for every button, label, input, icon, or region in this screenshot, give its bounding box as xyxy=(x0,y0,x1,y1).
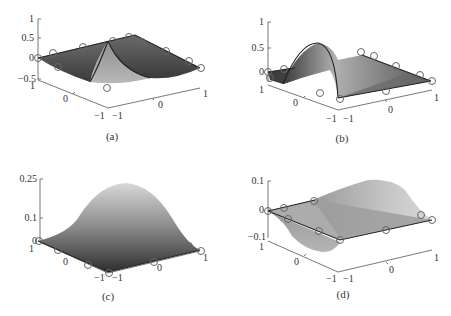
x-tick: 1 xyxy=(434,252,439,263)
panel-d: 0.1 0 −0.1 1 0 −1 −1 0 1 (d) xyxy=(248,175,439,301)
z-tick: 0 xyxy=(259,204,264,215)
y-tick: 0 xyxy=(294,256,299,267)
y-tick: −1 xyxy=(326,113,337,124)
x-tick: 1 xyxy=(203,88,208,99)
y-tick: 0 xyxy=(63,256,68,267)
caption-d: (d) xyxy=(337,288,350,301)
x-tick: 0 xyxy=(389,264,394,275)
z-tick: 0.1 xyxy=(25,212,38,223)
x-tick: 0 xyxy=(388,104,393,115)
panel-a: 1 0.5 0 −0.5 1 0 −1 −1 0 1 (a) xyxy=(18,13,208,143)
surface-b-main xyxy=(283,43,431,98)
y-tick: 1 xyxy=(259,84,264,95)
z-axis xyxy=(38,19,41,80)
y-tick: 0 xyxy=(63,93,68,104)
x-axis xyxy=(108,88,200,108)
z-axis xyxy=(268,181,271,238)
y-tick: −1 xyxy=(326,273,337,284)
y-tick: 1 xyxy=(30,80,35,91)
panel-b: 1 0.5 0 1 0 −1 −1 0 1 (b) xyxy=(252,16,440,145)
x-tick: −1 xyxy=(343,113,354,124)
z-tick: 1 xyxy=(259,16,264,27)
z-tick: 0 xyxy=(29,52,34,63)
z-tick: 0.5 xyxy=(252,42,265,53)
x-axis xyxy=(338,250,432,272)
y-tick: 1 xyxy=(29,243,34,254)
x-tick: −1 xyxy=(112,110,123,121)
caption-a: (a) xyxy=(106,130,119,143)
x-tick: 1 xyxy=(203,252,208,263)
figure-canvas: 1 0.5 0 −0.5 1 0 −1 −1 0 1 (a) 1 xyxy=(0,0,451,316)
z-tick: 0.25 xyxy=(20,173,38,184)
x-tick: 0 xyxy=(157,262,162,273)
y-tick: 0 xyxy=(293,97,298,108)
z-tick: 0 xyxy=(259,66,264,77)
y-tick: −1 xyxy=(94,272,105,283)
panel-c: 0.25 0.1 0 1 0 −1 −1 0 1 (c) xyxy=(20,173,209,303)
x-tick: −1 xyxy=(112,272,123,283)
z-tick: 1 xyxy=(29,13,34,24)
caption-c: (c) xyxy=(102,290,115,303)
z-axis xyxy=(40,179,43,242)
caption-b: (b) xyxy=(336,132,349,145)
x-tick: 1 xyxy=(434,92,439,103)
y-tick: 1 xyxy=(259,241,264,252)
x-tick: 0 xyxy=(158,99,163,110)
y-tick: −1 xyxy=(94,110,105,121)
x-tick: −1 xyxy=(343,273,354,284)
z-tick: 0.1 xyxy=(252,175,265,186)
z-tick: 0.5 xyxy=(22,32,35,43)
